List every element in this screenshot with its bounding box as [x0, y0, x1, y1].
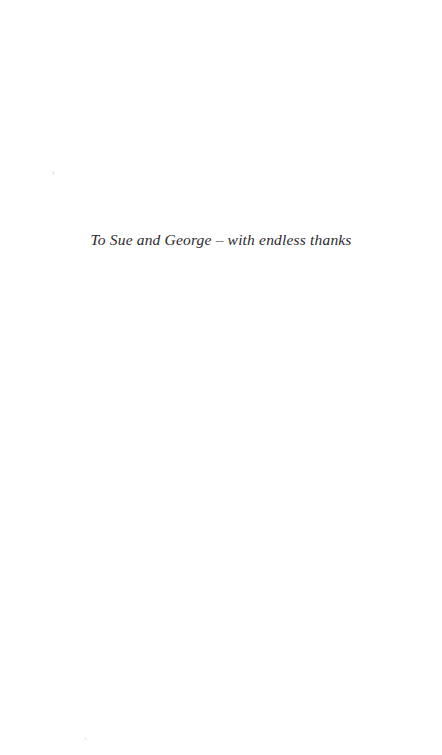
dedication-page: To Sue and George – with endless thanks	[0, 0, 442, 755]
scan-speck-lower-left	[84, 737, 87, 740]
dedication-block: To Sue and George – with endless thanks	[0, 230, 442, 250]
scan-speck-upper-left	[52, 171, 55, 175]
dedication-text: To Sue and George – with endless thanks	[90, 230, 351, 250]
